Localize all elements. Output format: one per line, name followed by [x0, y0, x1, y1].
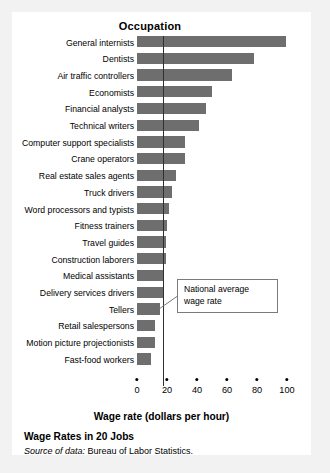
x-tick-label: 80: [252, 385, 262, 395]
bar-row: Technical writers: [12, 120, 311, 137]
x-tick-label: 40: [192, 385, 202, 395]
category-label: Dentists: [12, 53, 134, 65]
x-tick-marker: [165, 378, 168, 381]
bar: [137, 36, 286, 47]
bar: [137, 136, 185, 147]
category-label: Crane operators: [12, 153, 134, 165]
category-label: Air traffic controllers: [12, 70, 134, 82]
bar-row: Truck drivers: [12, 186, 311, 203]
category-label: Delivery services drivers: [12, 287, 134, 299]
bar-row: Air traffic controllers: [12, 69, 311, 86]
plot-area: General internistsDentistsAir traffic co…: [12, 36, 311, 376]
bar: [137, 253, 166, 264]
bar: [137, 120, 199, 131]
bar-row: Dentists: [12, 53, 311, 70]
x-tick-label: 0: [134, 385, 139, 395]
bar-row: Economists: [12, 86, 311, 103]
x-tick-label: 20: [162, 385, 172, 395]
bar-row: Word processors and typists: [12, 203, 311, 220]
bar: [137, 69, 232, 80]
bar: [137, 53, 254, 64]
bar: [137, 236, 166, 247]
figure-source-prefix: Source of data:: [24, 446, 85, 456]
national-average-reference-line: [163, 36, 165, 386]
bar-row: Travel guides: [12, 236, 311, 253]
category-label: Real estate sales agents: [12, 170, 134, 182]
bar: [137, 303, 160, 314]
category-label: Financial analysts: [12, 103, 134, 115]
bar-row: Financial analysts: [12, 103, 311, 120]
category-label: Medical assistants: [12, 270, 134, 282]
bar: [137, 86, 212, 97]
bar: [137, 320, 155, 331]
x-tick-label: 100: [279, 385, 294, 395]
category-label: Construction laborers: [12, 254, 134, 266]
x-tick-marker: [255, 378, 258, 381]
figure-container: Occupation General internistsDentistsAir…: [0, 0, 330, 473]
figure-title: Wage Rates in 20 Jobs: [24, 431, 134, 442]
category-label: General internists: [12, 37, 134, 49]
figure-source: Source of data: Bureau of Labor Statisti…: [24, 446, 193, 456]
figure-source-text: Bureau of Labor Statistics.: [85, 446, 193, 456]
chart-panel: Occupation General internistsDentistsAir…: [12, 12, 311, 455]
bar-row: Retail salespersons: [12, 320, 311, 337]
category-label: Tellers: [12, 304, 134, 316]
x-tick-label: 60: [222, 385, 232, 395]
annotation-callout-line1: National average: [184, 284, 249, 294]
x-tick-marker: [135, 378, 138, 381]
annotation-callout: National average wage rate: [177, 279, 278, 313]
bar: [137, 353, 151, 364]
category-label: Fitness trainers: [12, 220, 134, 232]
category-label: Technical writers: [12, 120, 134, 132]
x-tick-marker: [225, 378, 228, 381]
bar-row: Fitness trainers: [12, 220, 311, 237]
bar: [137, 170, 176, 181]
bar: [137, 103, 206, 114]
annotation-callout-line2: wage rate: [184, 296, 222, 306]
category-label: Travel guides: [12, 237, 134, 249]
category-label: Truck drivers: [12, 187, 134, 199]
bar: [137, 337, 155, 348]
category-label: Computer support specialists: [12, 137, 134, 149]
category-label: Word processors and typists: [12, 204, 134, 216]
bar-row: Fast-food workers: [12, 353, 311, 370]
bar-row: Construction laborers: [12, 253, 311, 270]
category-label: Motion picture projectionists: [12, 337, 134, 349]
y-axis-title: Occupation: [12, 20, 288, 32]
bar: [137, 186, 172, 197]
category-label: Retail salespersons: [12, 320, 134, 332]
bar-row: Real estate sales agents: [12, 170, 311, 187]
bar: [137, 153, 185, 164]
x-tick-marker: [195, 378, 198, 381]
x-axis-title: Wage rate (dollars per hour): [12, 411, 311, 422]
bar-row: Crane operators: [12, 153, 311, 170]
callout-leader-line: [159, 295, 179, 309]
bar-row: General internists: [12, 36, 311, 53]
category-label: Economists: [12, 87, 134, 99]
x-tick-marker: [285, 378, 288, 381]
bar: [137, 270, 164, 281]
bar-row: Computer support specialists: [12, 136, 311, 153]
x-axis: 020406080100: [12, 378, 311, 412]
bar-row: Motion picture projectionists: [12, 337, 311, 354]
category-label: Fast-food workers: [12, 354, 134, 366]
